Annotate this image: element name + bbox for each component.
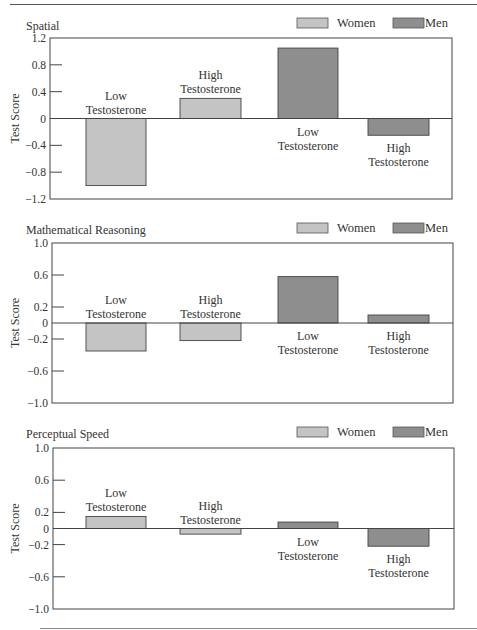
y-tick-label: 0.2 [34, 301, 49, 313]
bar-label-line1: High [387, 552, 411, 566]
y-tick-label: 0.8 [32, 59, 47, 71]
bar-label-line1: Low [105, 89, 127, 103]
bar-women-high-testosterone [180, 98, 241, 118]
chart-title: Spatial [26, 19, 60, 33]
y-tick-label: −0.6 [28, 571, 49, 583]
y-axis-label: Test Score [8, 503, 22, 553]
bar-label-line2: Testosterone [86, 500, 146, 514]
bar-label-line2: Testosterone [180, 307, 240, 321]
bar-label-line2: Testosterone [278, 549, 338, 563]
y-tick-label: −0.6 [27, 365, 48, 377]
bar-label-line2: Testosterone [368, 343, 428, 357]
bar-label-line1: High [199, 499, 223, 513]
legend-swatch-women [297, 223, 328, 233]
bar-women-high-testosterone [180, 529, 241, 535]
legend: WomenMen [297, 221, 449, 235]
legend-label-women: Women [337, 425, 376, 439]
bar-label-line2: Testosterone [86, 307, 146, 321]
bar-label-line1: High [387, 141, 411, 155]
bar-men-low-testosterone [278, 277, 338, 323]
legend-label-men: Men [425, 221, 449, 235]
y-tick-label: −1.0 [27, 397, 48, 409]
bar-label-line1: High [199, 293, 223, 307]
y-tick-label: 1.0 [34, 237, 49, 249]
bar-women-low-testosterone [86, 516, 146, 528]
bar-label-line1: Low [297, 125, 319, 139]
bottom-rule [40, 628, 477, 629]
bar-label-line2: Testosterone [368, 566, 428, 580]
y-tick-label: −0.4 [25, 139, 46, 151]
y-axis-label: Test Score [8, 298, 22, 348]
bar-label-line2: Testosterone [278, 343, 338, 357]
chart-mathematical-reasoning: Mathematical ReasoningWomenMen1.00.60.20… [0, 210, 477, 420]
bar-label-line1: Low [105, 293, 127, 307]
bar-women-low-testosterone [86, 119, 146, 186]
legend-swatch-women [297, 18, 328, 28]
y-tick-label: −0.2 [28, 539, 49, 551]
y-axis-label: Test Score [8, 93, 22, 143]
legend-label-men: Men [425, 16, 449, 30]
bar-label-line1: High [199, 68, 223, 82]
legend: WomenMen [297, 425, 449, 439]
bar-men-low-testosterone [278, 48, 338, 118]
bar-label-line2: Testosterone [86, 103, 146, 117]
y-tick-label: 0.6 [34, 269, 49, 281]
y-tick-label: 0.2 [35, 506, 50, 518]
legend-swatch-men [393, 223, 424, 233]
y-tick-label: −1.2 [25, 193, 46, 205]
legend: WomenMen [297, 16, 449, 30]
bar-women-high-testosterone [180, 323, 241, 341]
bar-label-line1: High [387, 329, 411, 343]
bar-men-high-testosterone [368, 119, 429, 136]
bar-label-line1: Low [297, 535, 319, 549]
y-tick-label: 1.2 [32, 32, 47, 44]
bar-label-line2: Testosterone [278, 139, 338, 153]
legend-swatch-women [297, 427, 328, 437]
chart-title: Mathematical Reasoning [26, 223, 146, 237]
bar-label-line2: Testosterone [180, 82, 240, 96]
chart-title: Perceptual Speed [26, 427, 109, 441]
y-tick-label: 0 [42, 317, 48, 329]
bar-women-low-testosterone [86, 323, 146, 351]
bar-label-line2: Testosterone [368, 155, 428, 169]
legend-label-women: Women [337, 16, 376, 30]
y-tick-label: 0.4 [32, 86, 47, 98]
bar-label-line2: Testosterone [180, 513, 240, 527]
legend-swatch-men [393, 427, 424, 437]
bar-men-high-testosterone [368, 315, 429, 323]
legend-label-women: Women [337, 221, 376, 235]
bar-label-line1: Low [105, 486, 127, 500]
y-tick-label: −0.8 [25, 166, 46, 178]
y-tick-label: 1.0 [35, 442, 50, 454]
y-tick-label: 0.6 [35, 474, 50, 486]
y-tick-label: −1.0 [28, 603, 49, 615]
bar-men-low-testosterone [278, 522, 338, 528]
bar-label-line1: Low [297, 329, 319, 343]
legend-swatch-men [393, 18, 424, 28]
y-tick-label: −0.2 [27, 333, 48, 345]
chart-spatial: SpatialWomenMen1.20.80.40−0.4−0.8−1.2Tes… [0, 0, 477, 210]
legend-label-men: Men [425, 425, 449, 439]
chart-perceptual-speed: Perceptual SpeedWomenMen1.00.60.20−0.2−0… [0, 420, 477, 630]
y-tick-label: 0 [40, 113, 46, 125]
y-tick-label: 0 [43, 523, 49, 535]
bar-men-high-testosterone [368, 529, 429, 547]
